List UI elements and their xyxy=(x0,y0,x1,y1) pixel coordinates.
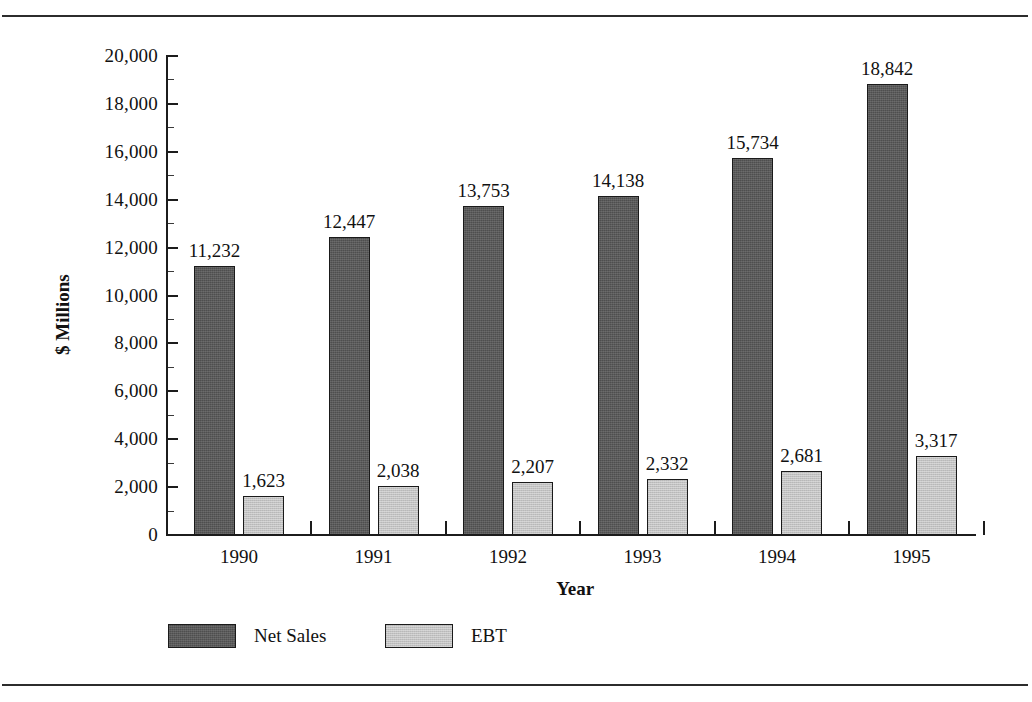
x-axis-tick-label: 1994 xyxy=(722,546,832,567)
bar-value-label: 2,332 xyxy=(621,454,713,474)
y-axis-tick xyxy=(168,438,178,440)
x-axis-tick xyxy=(848,521,850,535)
y-axis-tick-label: 2,000 xyxy=(40,477,158,496)
y-axis-tick xyxy=(168,534,178,536)
y-axis-tick-label: 16,000 xyxy=(40,142,158,161)
legend-item-label: EBT xyxy=(471,625,507,647)
x-axis-tick-label: 1991 xyxy=(319,546,429,567)
y-axis-minor-tick xyxy=(168,367,174,368)
bar-ebt-1990 xyxy=(243,496,284,535)
y-axis-tick xyxy=(168,199,178,201)
bar-value-label: 2,207 xyxy=(487,457,579,477)
bar-value-label: 18,842 xyxy=(841,59,933,79)
y-axis-minor-tick xyxy=(168,175,174,176)
y-axis-tick xyxy=(168,342,178,344)
y-axis-minor-tick xyxy=(168,463,174,464)
y-axis-title: $ Millions xyxy=(52,274,74,355)
bar-value-label: 13,753 xyxy=(438,181,530,201)
bar-chart: 02,0004,0006,0008,00010,00012,00014,0001… xyxy=(0,0,1032,702)
chart-legend: Net SalesEBT xyxy=(0,620,1032,660)
y-axis-tick-label: 20,000 xyxy=(40,46,158,65)
y-axis-tick xyxy=(168,151,178,153)
y-axis-tick-label: 14,000 xyxy=(40,190,158,209)
bar-value-label: 2,038 xyxy=(352,461,444,481)
y-axis-minor-tick xyxy=(168,223,174,224)
bar-value-label: 12,447 xyxy=(303,212,395,232)
x-axis-tick xyxy=(445,521,447,535)
x-axis-tick xyxy=(983,521,985,535)
x-axis-tick-label: 1993 xyxy=(588,546,698,567)
x-axis-tick-label: 1995 xyxy=(857,546,967,567)
bar-ebt-1992 xyxy=(512,482,553,535)
bar-ebt-1995 xyxy=(916,456,957,535)
y-axis-tick xyxy=(168,486,178,488)
y-axis-tick xyxy=(168,390,178,392)
x-axis-tick xyxy=(310,521,312,535)
legend-item-label: Net Sales xyxy=(254,625,326,647)
bar-net-sales-1994 xyxy=(732,158,773,535)
bar-value-label: 14,138 xyxy=(572,171,664,191)
x-axis-tick-label: 1992 xyxy=(453,546,563,567)
y-axis-tick xyxy=(168,103,178,105)
bar-net-sales-1995 xyxy=(867,84,908,535)
page-canvas: 02,0004,0006,0008,00010,00012,00014,0001… xyxy=(0,0,1032,702)
y-axis-tick-label: 0 xyxy=(40,525,158,544)
bar-net-sales-1990 xyxy=(194,266,235,535)
y-axis-tick xyxy=(168,295,178,297)
y-axis-tick-label: 4,000 xyxy=(40,429,158,448)
x-axis-tick xyxy=(579,521,581,535)
bar-value-label: 2,681 xyxy=(756,446,848,466)
y-axis-minor-tick xyxy=(168,319,174,320)
bar-net-sales-1992 xyxy=(463,206,504,535)
y-axis-tick xyxy=(168,55,178,57)
y-axis-minor-tick xyxy=(168,271,174,272)
bar-value-label: 1,623 xyxy=(218,471,310,491)
bar-value-label: 15,734 xyxy=(707,133,799,153)
y-axis-minor-tick xyxy=(168,79,174,80)
y-axis-tick-label: 6,000 xyxy=(40,381,158,400)
bar-ebt-1993 xyxy=(647,479,688,535)
dark-gray-swatch xyxy=(168,624,236,648)
bar-value-label: 11,232 xyxy=(169,241,261,261)
bar-ebt-1994 xyxy=(781,471,822,535)
y-axis-tick-label: 12,000 xyxy=(40,238,158,257)
y-axis-minor-tick xyxy=(168,127,174,128)
x-axis-line xyxy=(166,534,976,536)
x-axis-tick-label: 1990 xyxy=(184,546,294,567)
y-axis-minor-tick xyxy=(168,511,174,512)
y-axis-minor-tick xyxy=(168,415,174,416)
light-gray-swatch xyxy=(385,624,453,648)
bar-value-label: 3,317 xyxy=(890,431,982,451)
x-axis-title: Year xyxy=(59,578,1032,600)
y-axis-tick-label: 18,000 xyxy=(40,94,158,113)
bar-net-sales-1993 xyxy=(598,196,639,535)
bar-ebt-1991 xyxy=(378,486,419,535)
x-axis-tick xyxy=(714,521,716,535)
bar-net-sales-1991 xyxy=(329,237,370,535)
